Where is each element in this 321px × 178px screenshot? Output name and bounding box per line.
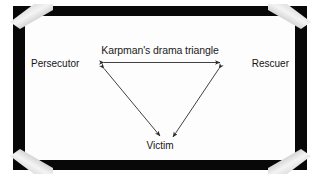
edge-rescuer-victim [173,69,219,138]
triangle-arrows [25,16,295,160]
figure-screenshot: Karpman's drama triangle Persecutor Resc… [0,0,321,178]
node-label-persecutor: Persecutor [31,58,79,69]
node-label-victim: Victim [25,140,295,151]
diagram-canvas: Karpman's drama triangle Persecutor Resc… [25,16,295,160]
node-label-rescuer: Rescuer [252,58,289,69]
edge-persecutor-victim [104,69,160,137]
